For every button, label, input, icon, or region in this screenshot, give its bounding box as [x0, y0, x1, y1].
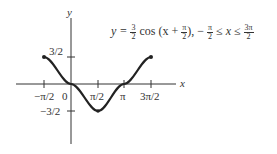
endpoint-left	[42, 55, 46, 59]
tick-label-3pi-2: 3π/2	[140, 90, 160, 102]
eq-hi-fraction: 3π2	[244, 24, 254, 41]
equation-label: y = 32 cos (x + π2), − π2 ≤ x ≤ 3π2	[111, 24, 254, 41]
eq-func: cos (x +	[136, 24, 181, 38]
eq-mid: ), −	[187, 24, 207, 38]
x-axis-label: x	[179, 77, 185, 89]
tick-label-y-pos: 3/2	[49, 45, 63, 57]
endpoint-right	[149, 55, 153, 59]
y-axis-label: y	[66, 6, 72, 18]
tick-label-pi: π	[120, 90, 126, 102]
eq-ineq: ≤ x ≤	[213, 24, 244, 38]
tick-label-pi-2: π/2	[90, 90, 104, 102]
tick-label-neg-pi-2: −π/2	[34, 90, 54, 102]
minimum-point	[96, 109, 100, 113]
eq-lhs: y =	[111, 24, 130, 38]
tick-label-y-neg: −3/2	[40, 105, 60, 117]
tick-label-zero: 0	[62, 90, 68, 102]
